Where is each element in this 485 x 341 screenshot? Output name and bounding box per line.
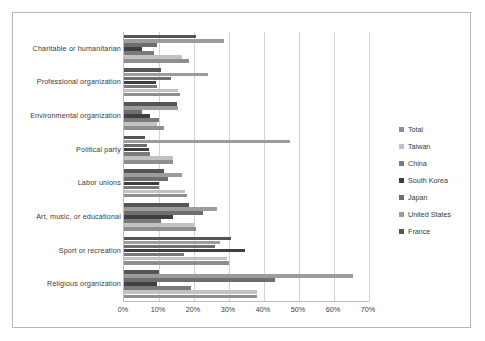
bar-fill xyxy=(124,43,157,47)
bar xyxy=(124,286,191,290)
x-axis-tick-label: 60% xyxy=(326,305,340,314)
bar xyxy=(124,126,164,130)
bar xyxy=(124,182,159,186)
legend-item-label: United States xyxy=(408,211,451,218)
bar xyxy=(124,47,142,51)
bar-fill xyxy=(124,55,182,59)
bar xyxy=(124,295,257,299)
bar-group xyxy=(124,32,369,66)
bar xyxy=(124,156,173,160)
category-label: Professional organization xyxy=(13,78,121,85)
bar-fill xyxy=(124,186,159,190)
bar xyxy=(124,215,173,219)
category-label: Charitable or humanitarian xyxy=(13,45,121,52)
category-label: Religious organization xyxy=(13,280,121,287)
bar xyxy=(124,144,147,148)
bar xyxy=(124,190,185,194)
bar-fill xyxy=(124,148,149,152)
bar xyxy=(124,118,159,122)
bar xyxy=(124,274,353,278)
bar xyxy=(124,194,187,198)
bar-fill xyxy=(124,59,189,63)
bar-fill xyxy=(124,237,231,241)
bar-fill xyxy=(124,77,171,81)
category-axis: Charitable or humanitarianProfessional o… xyxy=(13,32,121,302)
bar xyxy=(124,253,184,257)
x-axis-tick-label: 30% xyxy=(221,305,235,314)
bar-fill xyxy=(124,68,161,72)
bar xyxy=(124,43,157,47)
legend-swatch-icon xyxy=(399,178,404,183)
category-label: Art, music, or educational xyxy=(13,213,121,220)
bar-fill xyxy=(124,114,150,118)
bar-fill xyxy=(124,89,178,93)
bar-group xyxy=(124,167,369,201)
bar-group xyxy=(124,234,369,268)
legend-item-label: France xyxy=(408,228,430,235)
x-axis-tick-label: 40% xyxy=(256,305,270,314)
bar xyxy=(124,136,145,140)
legend-item-label: Japan xyxy=(408,194,428,201)
bar xyxy=(124,39,224,43)
gridline xyxy=(369,32,370,301)
legend-swatch-icon xyxy=(399,229,404,234)
bar-fill xyxy=(124,81,156,85)
bar-fill xyxy=(124,102,177,106)
bar xyxy=(124,106,178,110)
bar-fill xyxy=(124,118,159,122)
bar-fill xyxy=(124,122,157,126)
bar-group xyxy=(124,200,369,234)
legend-item-total[interactable]: Total xyxy=(399,121,471,138)
bar-group xyxy=(124,133,369,167)
bar xyxy=(124,102,177,106)
bar-fill xyxy=(124,219,161,223)
bar-fill xyxy=(124,190,185,194)
bar-fill xyxy=(124,286,191,290)
bar-fill xyxy=(124,160,173,164)
bar xyxy=(124,237,231,241)
bar-fill xyxy=(124,169,164,173)
bar xyxy=(124,245,215,249)
bar xyxy=(124,290,257,294)
legend-item-china[interactable]: China xyxy=(399,155,471,172)
bar xyxy=(124,270,159,274)
legend-item-united-states[interactable]: United States xyxy=(399,206,471,223)
bar-fill xyxy=(124,93,180,97)
bar xyxy=(124,207,217,211)
bar-fill xyxy=(124,253,184,257)
bar xyxy=(124,59,189,63)
category-label: Labor unions xyxy=(13,179,121,186)
legend-swatch-icon xyxy=(399,212,404,217)
legend-item-label: Total xyxy=(408,126,423,133)
legend-item-japan[interactable]: Japan xyxy=(399,189,471,206)
legend-item-france[interactable]: France xyxy=(399,223,471,240)
bar xyxy=(124,160,173,164)
bar xyxy=(124,93,180,97)
bar xyxy=(124,55,182,59)
legend-item-label: Taiwan xyxy=(408,143,430,150)
value-axis: 0%10%20%30%40%50%60%70% xyxy=(123,305,383,321)
bar-fill xyxy=(124,182,159,186)
bar xyxy=(124,110,142,114)
plot-area xyxy=(123,32,369,302)
bar xyxy=(124,85,157,89)
bar xyxy=(124,278,275,282)
chart-legend: TotalTaiwanChinaSouth KoreaJapanUnited S… xyxy=(399,121,471,240)
bar-fill xyxy=(124,51,154,55)
bar xyxy=(124,140,290,144)
bar xyxy=(124,261,229,265)
bar xyxy=(124,173,182,177)
bar-fill xyxy=(124,257,227,261)
x-axis-tick-label: 10% xyxy=(151,305,165,314)
bar xyxy=(124,152,150,156)
bar xyxy=(124,73,208,77)
bar-group xyxy=(124,99,369,133)
legend-item-south-korea[interactable]: South Korea xyxy=(399,172,471,189)
bar-fill xyxy=(124,152,150,156)
bar-fill xyxy=(124,295,257,299)
bar xyxy=(124,122,157,126)
x-axis-tick-label: 0% xyxy=(118,305,128,314)
bar xyxy=(124,35,196,39)
legend-item-taiwan[interactable]: Taiwan xyxy=(399,138,471,155)
bar-fill xyxy=(124,39,224,43)
